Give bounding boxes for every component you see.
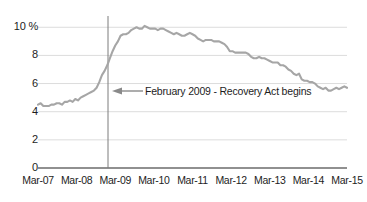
x-tick-label: Mar-13 bbox=[254, 174, 285, 186]
x-tick-label: Mar-15 bbox=[331, 174, 362, 186]
y-axis-tick-labels: 0246810 % bbox=[0, 0, 38, 202]
x-tick-label: Mar-07 bbox=[22, 174, 53, 186]
y-tick-label: 0 bbox=[4, 161, 38, 173]
chart-plot-area bbox=[0, 0, 367, 202]
x-tick-label: Mar-11 bbox=[177, 174, 208, 186]
y-tick-label: 6 bbox=[4, 77, 38, 89]
y-tick-label: 8 bbox=[4, 48, 38, 60]
x-tick-label: Mar-09 bbox=[100, 174, 131, 186]
recovery-act-arrow-icon bbox=[112, 87, 143, 94]
unemployment-line-chart: 0246810 % Mar-07Mar-08Mar-09Mar-10Mar-11… bbox=[0, 0, 367, 202]
gridlines-group bbox=[38, 27, 347, 140]
y-tick-label: 4 bbox=[4, 105, 38, 117]
x-axis-tick-labels: Mar-07Mar-08Mar-09Mar-10Mar-11Mar-12Mar-… bbox=[0, 174, 367, 194]
x-tick-label: Mar-08 bbox=[61, 174, 92, 186]
y-tick-label: 10 % bbox=[4, 20, 38, 32]
x-tick-label: Mar-10 bbox=[138, 174, 169, 186]
y-tick-label: 2 bbox=[4, 133, 38, 145]
recovery-act-annotation-label: February 2009 - Recovery Act begins bbox=[145, 85, 311, 97]
x-tick-label: Mar-12 bbox=[215, 174, 246, 186]
x-tick-label: Mar-14 bbox=[293, 174, 324, 186]
